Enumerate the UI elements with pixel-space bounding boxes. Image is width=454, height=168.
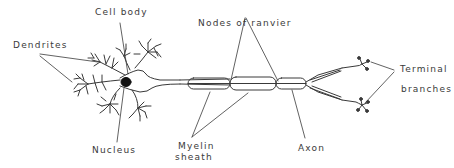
- axon-branches: [306, 64, 362, 105]
- leader-lines: [40, 18, 394, 142]
- leader-dendrites-b: [40, 56, 72, 82]
- myelin-sheath-segments: [170, 77, 306, 90]
- label-cell-body: Cell body: [95, 7, 148, 18]
- nucleus-shape: [121, 78, 131, 87]
- label-terminal-branches-1: Terminal: [400, 64, 448, 75]
- leader-terminal-b: [365, 72, 394, 103]
- label-terminal-branches-2: branches: [401, 84, 452, 95]
- leader-terminal-a: [371, 62, 394, 70]
- label-nucleus: Nucleus: [92, 145, 136, 156]
- terminal-branches: [357, 57, 370, 113]
- label-myelin-sheath-1: Myelin: [178, 141, 215, 152]
- label-nodes-of-ranvier: Nodes of ranvier: [198, 18, 292, 29]
- neuron-diagram: Cell body Dendrites Nucleus Nodes of ran…: [0, 0, 454, 168]
- label-dendrites: Dendrites: [13, 40, 68, 51]
- dendrites: [74, 39, 161, 121]
- leader-axon: [292, 90, 305, 138]
- leader-cell-body: [120, 23, 128, 74]
- label-axon: Axon: [298, 143, 325, 154]
- label-myelin-sheath-2: sheath: [175, 152, 213, 163]
- leader-nucleus: [117, 88, 124, 142]
